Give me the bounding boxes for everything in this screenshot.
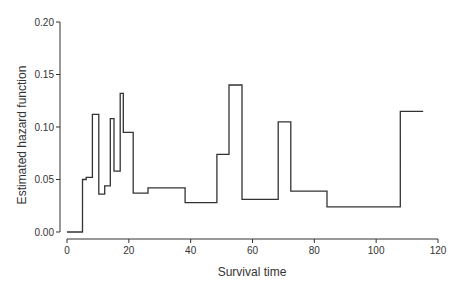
x-tick-label: 120 (430, 245, 447, 256)
y-tick-label: 0.05 (35, 174, 55, 185)
y-tick-label: 0.00 (35, 227, 55, 238)
y-tick-label: 0.20 (35, 17, 55, 28)
hazard-step-line (67, 85, 423, 232)
x-axis-title: Survival time (218, 265, 287, 279)
hazard-step-chart: 0.000.050.100.150.20 020406080100120 Sur… (0, 0, 460, 289)
x-tick-label: 40 (185, 245, 197, 256)
y-axis: 0.000.050.100.150.20 (35, 17, 60, 238)
plot-area (67, 85, 423, 232)
x-tick-label: 20 (123, 245, 135, 256)
x-tick-label: 100 (368, 245, 385, 256)
x-tick-label: 80 (309, 245, 321, 256)
x-tick-label: 60 (247, 245, 259, 256)
y-tick-label: 0.10 (35, 122, 55, 133)
y-tick-label: 0.15 (35, 69, 55, 80)
y-axis-title: Estimated hazard function (15, 66, 29, 205)
x-axis: 020406080100120 (64, 239, 447, 256)
x-tick-label: 0 (64, 245, 70, 256)
